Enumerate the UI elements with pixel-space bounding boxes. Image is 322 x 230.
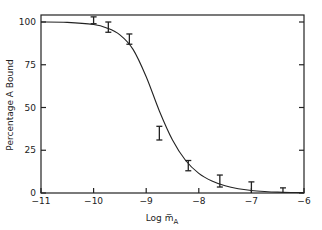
error-bar (105, 22, 111, 32)
x-tick-label: −7 (245, 196, 258, 206)
plot-frame (41, 15, 304, 193)
error-bar (156, 126, 162, 140)
x-axis-ticks: −11−10−9−8−7−6 (32, 188, 311, 206)
x-axis-label: Log m̅A (146, 213, 179, 226)
y-tick-label: 25 (25, 145, 36, 155)
x-tick-label: −8 (192, 196, 206, 206)
plot-area (41, 15, 304, 193)
x-axis-label-subscript: A (173, 218, 178, 226)
x-tick-label: −10 (84, 196, 103, 206)
fitted-curve (41, 22, 304, 193)
y-tick-label: 100 (19, 17, 36, 27)
error-bar (91, 17, 97, 24)
y-axis-label: Percentage A Bound (5, 59, 15, 150)
x-tick-label: −9 (140, 196, 154, 206)
error-bar (126, 34, 132, 44)
y-tick-label: 75 (25, 60, 36, 70)
y-tick-label: 50 (25, 103, 37, 113)
x-axis-label-main: Log m̅ (146, 213, 174, 223)
x-tick-label: −6 (297, 196, 311, 206)
chart: −11−10−9−8−7−6 0255075100 Log m̅A Percen… (0, 0, 322, 230)
y-tick-label: 0 (30, 188, 36, 198)
y-axis-ticks: 0255075100 (19, 17, 304, 198)
